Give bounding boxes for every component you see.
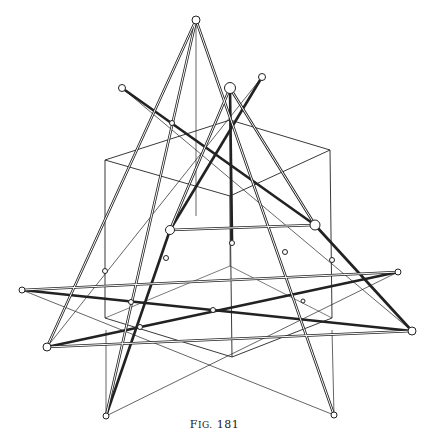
- stellated-framework-figure: [0, 0, 429, 439]
- caption-prefix-cap: F: [190, 418, 198, 431]
- joint-nodes: [19, 16, 416, 419]
- caption-number: 181: [217, 418, 240, 431]
- rods-inner: [22, 20, 412, 416]
- figure-caption: FIG. 181: [0, 418, 429, 431]
- caption-prefix-rest: IG.: [198, 420, 213, 430]
